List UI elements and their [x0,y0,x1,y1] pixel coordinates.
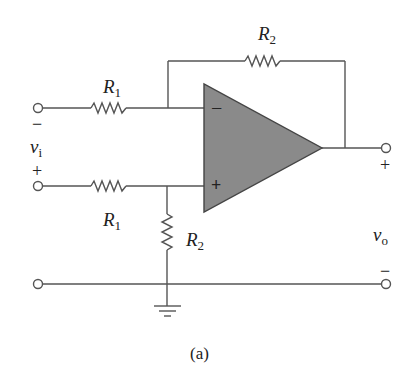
resistor-r2-feedback [245,56,280,66]
output-terminal [382,144,391,153]
ground-branch [162,186,172,306]
resistor-r1-bottom [91,181,126,191]
top-input-wire [42,103,204,113]
circuit-diagram: R1 R1 R2 R2 − + − vi + + vo − (a) [0,0,405,371]
input-terminal-bottom [34,182,43,191]
label-r2-feedback: R2 [258,24,276,46]
opamp-inverting-sign: − [211,98,222,118]
resistor-r2-ground [162,214,172,250]
input-plus-sign: + [32,162,42,180]
output-minus-sign: − [380,262,390,280]
ground-icon [154,306,181,316]
output-plus-sign: + [380,156,390,174]
input-terminal-top [34,104,43,113]
opamp-noninverting-sign: + [211,176,221,194]
schematic-drawing [0,0,405,371]
label-r1-top: R1 [103,77,121,99]
label-r2-ground: R2 [186,230,204,252]
ground-terminal-left [34,280,43,289]
label-vo: vo [373,225,388,247]
figure-caption: (a) [190,345,209,362]
label-r1-bottom: R1 [103,210,121,232]
resistor-r1-top [91,103,126,113]
input-minus-sign: − [32,115,42,133]
label-vi: vi [30,137,42,159]
bottom-input-wire [42,181,204,191]
